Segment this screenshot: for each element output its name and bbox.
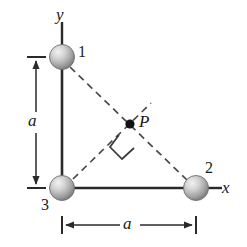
figure-canvas <box>0 0 247 247</box>
physics-figure: y x 1 2 3 P a a <box>0 0 247 247</box>
dimension-a-vertical-label: a <box>28 112 37 129</box>
field-point-p-dot[interactable] <box>125 119 134 128</box>
particle-3-sphere[interactable] <box>50 176 75 201</box>
particle-2-sphere[interactable] <box>184 176 209 201</box>
y-axis-label: y <box>56 6 64 23</box>
triangle-legs <box>62 69 184 188</box>
x-axis-label: x <box>222 179 230 196</box>
particle-1-sphere[interactable] <box>50 45 75 70</box>
particle-3-label: 3 <box>41 197 49 213</box>
right-angle-marker-icon <box>110 135 134 159</box>
field-point-p-label: P <box>139 113 149 130</box>
dimension-a-horizontal-label: a <box>123 215 132 232</box>
particle-1-label: 1 <box>78 44 86 60</box>
axis-lines <box>62 22 222 188</box>
particle-2-label: 2 <box>205 160 213 176</box>
